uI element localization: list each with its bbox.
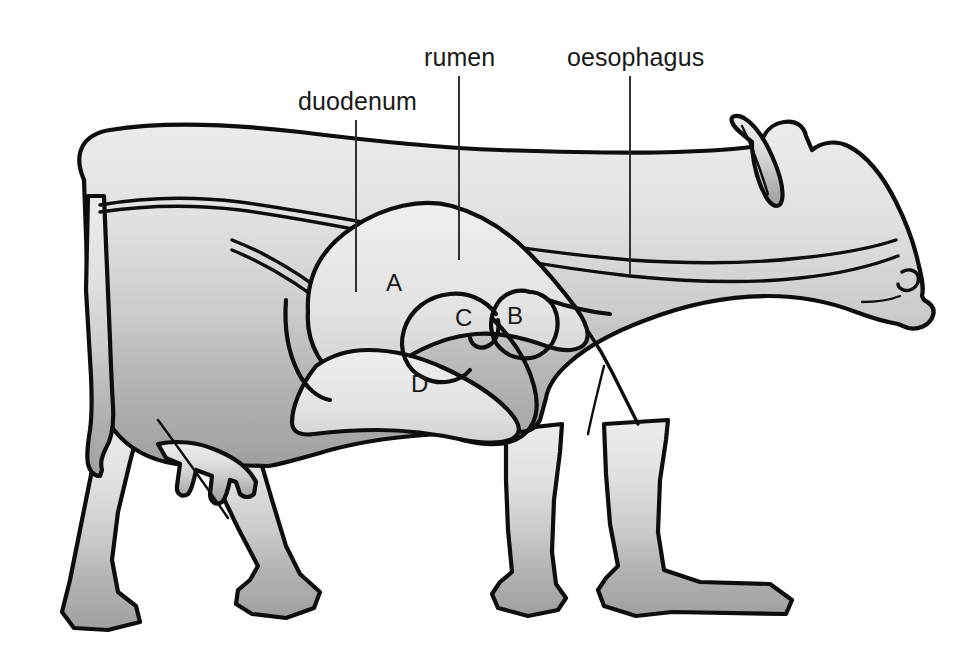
label-oesophagus: oesophagus — [567, 43, 704, 71]
compartment-letter-c: C — [455, 304, 472, 331]
front-leg-far — [492, 424, 566, 616]
cow-digestive-diagram: duodenum rumen oesophagus A B C D — [0, 0, 963, 667]
cow-shoulder-crease — [588, 366, 604, 434]
compartment-letter-b: B — [507, 302, 523, 329]
compartment-letter-d: D — [411, 370, 428, 397]
cow-body-group — [62, 116, 934, 630]
front-leg-near — [598, 420, 792, 616]
compartment-letter-a: A — [386, 269, 402, 296]
labels-group: duodenum rumen oesophagus — [298, 43, 704, 115]
label-duodenum: duodenum — [298, 87, 417, 115]
cow-diagram-svg: duodenum rumen oesophagus A B C D — [0, 0, 963, 667]
label-rumen: rumen — [424, 43, 495, 71]
